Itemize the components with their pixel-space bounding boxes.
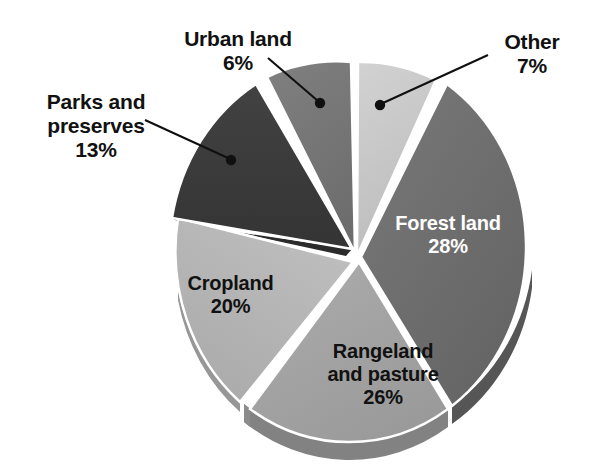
slice-label-cropland-name: Cropland (158, 272, 303, 295)
slice-side-rangeland-left (244, 404, 250, 427)
leader-dot-parks (226, 155, 236, 165)
slice-label-parks-percent: 13% (16, 138, 176, 162)
slice-label-forest-land-name: Forest land (373, 212, 523, 235)
slice-label-forest-land: Forest land 28% (373, 212, 523, 258)
pie-chart: Urban land 6% Other 7% Parks and preserv… (0, 0, 589, 472)
slice-label-rangeland-percent: 26% (293, 386, 473, 409)
slice-label-urban-land-name: Urban land (168, 27, 308, 51)
slice-label-other-percent: 7% (492, 54, 572, 78)
slice-label-other: Other 7% (492, 30, 572, 78)
slice-label-rangeland-name-line1: Rangeland (293, 340, 473, 363)
leader-dot-other (375, 100, 385, 110)
slice-label-cropland-percent: 20% (158, 295, 303, 318)
slice-label-parks-name-line1: Parks and (16, 90, 176, 114)
slice-label-other-name: Other (492, 30, 572, 54)
slice-label-rangeland-and-pasture: Rangeland and pasture 26% (293, 340, 473, 408)
slice-label-parks-and-preserves: Parks and preserves 13% (16, 90, 176, 162)
slice-label-parks-name-line2: preserves (47, 114, 144, 137)
leader-dot-urban-land (315, 98, 325, 108)
slice-label-rangeland-name-line2: and pasture (293, 363, 473, 386)
slice-label-cropland: Cropland 20% (158, 272, 303, 318)
slice-label-urban-land-percent: 6% (168, 51, 308, 75)
slice-label-forest-land-percent: 28% (373, 235, 523, 258)
slice-label-urban-land: Urban land 6% (168, 27, 308, 75)
